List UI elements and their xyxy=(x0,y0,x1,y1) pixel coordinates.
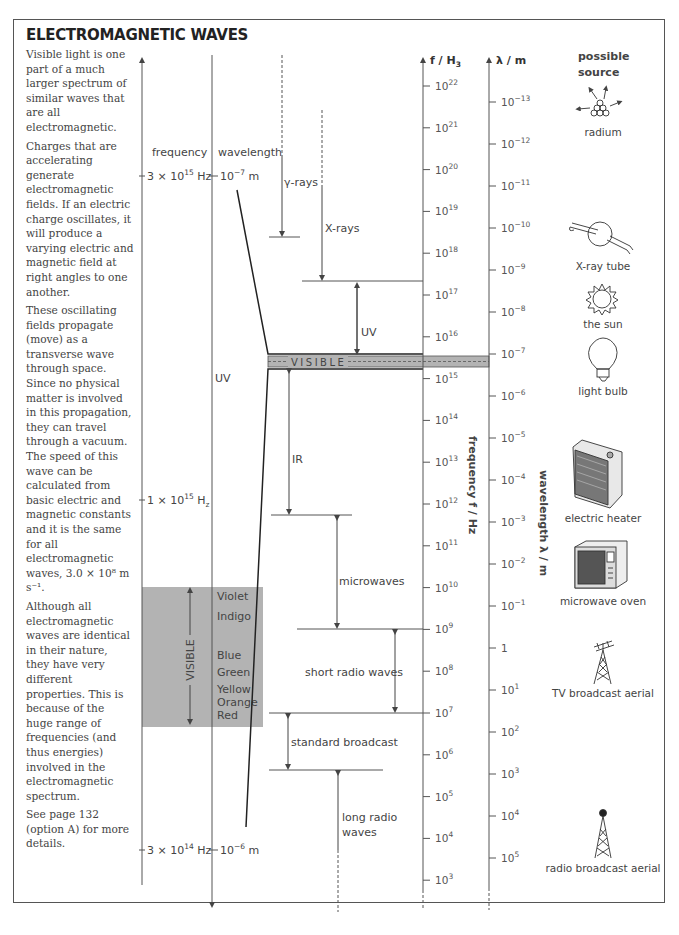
frequency-tick-label: 105 xyxy=(435,789,453,803)
frequency-tick-label: 1010 xyxy=(435,580,458,594)
wavelength-tick-label: 10−7 xyxy=(501,346,526,360)
frequency-tick-label: 1017 xyxy=(435,287,458,301)
frequency-tick-label: 107 xyxy=(435,705,453,719)
wavelength-axis-side-label: wavelength λ / m xyxy=(537,470,550,576)
sources-header-1: possible xyxy=(578,50,629,63)
wavelength-header: wavelength xyxy=(218,146,282,159)
source-microwave-oven-label: microwave oven xyxy=(560,595,646,607)
frequency-tick-label: 108 xyxy=(435,663,453,677)
uv-label: UV xyxy=(361,326,377,339)
frequency-axis-header: f / H3 xyxy=(430,54,461,69)
microwaves-label: microwaves xyxy=(339,575,405,588)
long-radio-label-1: long radio xyxy=(342,811,398,824)
frequency-axis: f / H3 frequency f / Hz 1022102110201019… xyxy=(423,54,479,910)
wavelength-tick-label: 102 xyxy=(501,724,519,738)
wavelength-tick-label: 10−10 xyxy=(501,220,530,234)
wavelength-tick-label: 10−1 xyxy=(501,598,526,612)
frequency-header: frequency xyxy=(152,146,208,159)
xray-tube-icon xyxy=(570,222,634,254)
short-radio-label: short radio waves xyxy=(305,666,403,679)
source-xray-tube-label: X-ray tube xyxy=(576,260,631,272)
color-green: Green xyxy=(217,666,250,679)
wavelength-tick-label: 101 xyxy=(501,682,519,696)
frequency-tick-label: 1015 xyxy=(435,371,458,385)
source-light-bulb-label: light bulb xyxy=(578,385,628,397)
radium-icon xyxy=(578,88,620,116)
frequency-tick-label: 104 xyxy=(435,830,453,844)
visible-detail: frequency wavelength 3 × 1015 Hz 10−7 m … xyxy=(139,55,423,905)
frequency-tick-label: 1012 xyxy=(435,496,458,510)
top-frequency-label: 3 × 1015 Hz xyxy=(147,168,212,183)
radio-aerial-icon xyxy=(595,810,611,859)
sun-icon xyxy=(586,284,618,315)
frequency-tick-label: 1013 xyxy=(435,454,458,468)
electric-heater-icon xyxy=(573,440,622,508)
wavelength-tick-label: 10−8 xyxy=(501,304,526,318)
visible-detail-label: VISIBLE xyxy=(184,639,197,681)
source-tv-aerial-label: TV broadcast aerial xyxy=(551,687,654,699)
wavelength-tick-label: 10−11 xyxy=(501,178,530,192)
wavelength-tick-label: 10−12 xyxy=(501,136,530,150)
frequency-tick-label: 109 xyxy=(435,621,453,635)
frequency-tick-label: 1019 xyxy=(435,203,458,217)
frequency-tick-label: 1021 xyxy=(435,120,458,134)
bottom-frequency-label: 3 × 1014 Hz xyxy=(147,842,212,857)
visible-strip-label: VISIBLE xyxy=(291,357,346,368)
source-radium-label: radium xyxy=(584,126,621,138)
frequency-tick-label: 1016 xyxy=(435,329,458,343)
wavelength-tick-label: 1 xyxy=(501,642,508,654)
wavelength-tick-label: 10−13 xyxy=(501,94,530,108)
mid-frequency-label: 1 × 1015 Hz xyxy=(147,492,210,509)
wavelength-tick-label: 10−2 xyxy=(501,556,526,570)
spectrum-diagram: frequency wavelength 3 × 1015 Hz 10−7 m … xyxy=(0,0,679,935)
wavelength-axis-header: λ / m xyxy=(496,54,526,67)
sources-column: possible source radium X-ray tube the su… xyxy=(546,50,661,874)
frequency-tick-label: 1020 xyxy=(435,162,458,176)
frequency-tick-label: 106 xyxy=(435,747,453,761)
color-indigo: Indigo xyxy=(217,610,251,623)
gamma-rays-label: γ-rays xyxy=(284,176,318,189)
tv-aerial-icon xyxy=(594,641,614,684)
ir-label: IR xyxy=(292,453,303,466)
source-electric-heater-label: electric heater xyxy=(565,512,642,524)
bottom-wavelength-label: 10−6 m xyxy=(220,842,259,857)
source-radio-aerial-label: radio broadcast aerial xyxy=(546,862,661,874)
wavelength-tick-label: 103 xyxy=(501,766,519,780)
spectrum-bands: VISIBLE γ-rays X-rays UV IR microwaves s… xyxy=(268,55,489,912)
frequency-tick-label: 1022 xyxy=(435,78,458,92)
color-violet: Violet xyxy=(217,590,249,603)
wavelength-tick-label: 10−5 xyxy=(501,430,526,444)
color-blue: Blue xyxy=(217,649,242,662)
wavelength-tick-label: 10−3 xyxy=(501,514,526,528)
wavelength-tick-label: 10−6 xyxy=(501,388,526,402)
wavelength-tick-label: 104 xyxy=(501,808,519,822)
wavelength-axis: λ / m wavelength λ / m 10−1310−1210−1110… xyxy=(489,54,550,910)
wavelength-tick-label: 10−4 xyxy=(501,472,526,486)
top-wavelength-label: 10−7 m xyxy=(220,168,259,183)
microwave-oven-icon xyxy=(575,541,627,588)
long-radio-label-2: waves xyxy=(342,826,377,839)
light-bulb-icon xyxy=(589,338,618,381)
uv-detail-label: UV xyxy=(215,372,231,385)
wavelength-tick-label: 105 xyxy=(501,850,519,864)
standard-broadcast-label: standard broadcast xyxy=(291,736,399,749)
frequency-tick-label: 1011 xyxy=(435,538,458,552)
wavelength-tick-label: 10−9 xyxy=(501,262,526,276)
frequency-tick-label: 1014 xyxy=(435,412,458,426)
color-yellow: Yellow xyxy=(216,683,251,696)
zoom-connector-bottom xyxy=(246,369,423,827)
color-red: Red xyxy=(217,709,238,722)
frequency-tick-label: 1018 xyxy=(435,245,458,259)
frequency-axis-side-label: frequency f / Hz xyxy=(466,436,479,534)
source-sun-label: the sun xyxy=(583,318,622,330)
frequency-tick-label: 103 xyxy=(435,872,453,886)
sources-header-2: source xyxy=(578,66,619,79)
zoom-connector-top xyxy=(237,190,423,354)
x-rays-label: X-rays xyxy=(325,222,360,235)
